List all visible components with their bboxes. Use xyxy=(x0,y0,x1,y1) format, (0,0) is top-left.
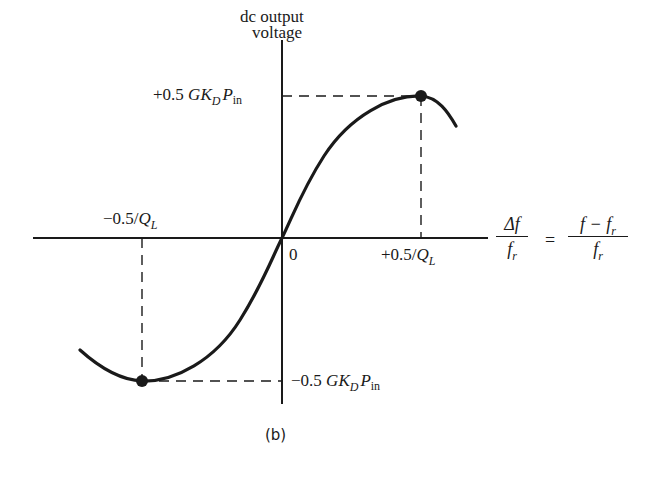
x-neg-label: −0.5/QL xyxy=(103,210,158,227)
x-axis-label-rhs: f − fr fr xyxy=(568,215,628,258)
y-axis-label-line2: voltage xyxy=(252,24,302,41)
diagram-canvas xyxy=(0,0,657,480)
max-point-marker xyxy=(415,90,427,102)
x-pos-label: +0.5/QL xyxy=(381,246,436,263)
origin-label: 0 xyxy=(289,246,298,263)
x-axis-label-equals: = xyxy=(545,231,555,249)
x-axis-label-lhs: Δf fr xyxy=(496,215,528,258)
y-max-label: +0.5 GKDPin xyxy=(153,86,242,103)
min-point-marker xyxy=(136,375,148,387)
y-min-label: −0.5 GKDPin xyxy=(291,372,380,389)
figure-caption: (b) xyxy=(265,428,286,443)
